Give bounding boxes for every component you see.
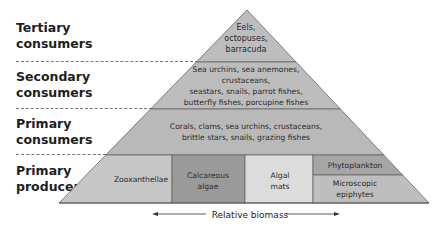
phytoplankton-label: Phytoplankton bbox=[328, 161, 383, 170]
zooxanthellae-label: Zooxanthellae bbox=[114, 175, 169, 184]
organism-text: Sea urchins, sea anemones, bbox=[193, 65, 300, 74]
organism-text: Eels, bbox=[237, 23, 256, 32]
relative-biomass-label: Relative biomass bbox=[210, 210, 290, 220]
microscopic-epiphytes-label: Microscopic bbox=[333, 179, 377, 188]
organism-text: seastars, snails, parrot fishes, bbox=[189, 87, 302, 96]
microscopic-epiphytes-label: epiphytes bbox=[336, 190, 373, 199]
organism-text: octopuses, bbox=[224, 34, 267, 43]
algal-mats-label: Algal bbox=[271, 171, 290, 180]
organism-text: barracuda bbox=[226, 45, 267, 54]
pyramid-graphic: Eels, octopuses, barracuda Sea urchins, … bbox=[0, 0, 444, 230]
arrow-left-icon bbox=[152, 212, 158, 216]
organism-text: crustaceans, bbox=[222, 76, 270, 85]
organism-text: butterfly fishes, porcupine fishes bbox=[184, 98, 309, 107]
algal-mats-label: mats bbox=[271, 182, 290, 191]
tier-primary-consumers bbox=[106, 109, 384, 155]
calcareous-algae-label: Calcareous bbox=[187, 171, 229, 180]
organism-text: brittle stars, snails, grazing fishes bbox=[182, 133, 310, 142]
trophic-pyramid-diagram: Tertiary consumers Secondary consumers P… bbox=[0, 0, 444, 230]
arrow-right-icon bbox=[334, 212, 340, 216]
organism-text: Corals, clams, sea urchins, crustaceans, bbox=[170, 122, 322, 131]
calcareous-algae-label: algae bbox=[198, 182, 219, 191]
